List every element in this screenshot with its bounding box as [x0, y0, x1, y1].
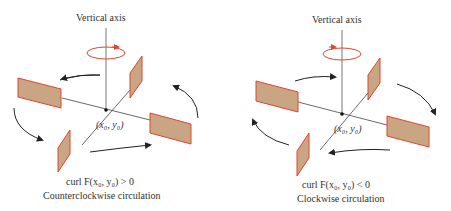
center-point	[340, 112, 344, 116]
point-label: (x₀, y₀)	[334, 123, 362, 134]
point-label: (x₀, y₀)	[96, 119, 124, 130]
paddle-right	[150, 113, 191, 144]
curl-caption: curl F(x₀, y₀) < 0	[302, 179, 370, 190]
axis-label: Vertical axis	[312, 14, 362, 25]
paddle-right	[387, 116, 429, 147]
center-point	[104, 108, 108, 112]
paddle-back	[368, 58, 380, 100]
ccw-panel: Vertical axis (x₀, y₀) curl F(x₀, y₀) > …	[0, 0, 225, 211]
cw-panel: Vertical axis (x₀, y₀) curl F(x₀, y₀) < …	[225, 0, 451, 211]
axis-label: Vertical axis	[76, 12, 126, 23]
paddle-left	[18, 78, 61, 108]
circulation-caption: Clockwise circulation	[297, 193, 384, 204]
flow-arrow	[295, 77, 335, 82]
curl-caption: curl F(x₀, y₀) > 0	[66, 176, 134, 187]
paddle-front	[297, 133, 309, 176]
paddle-back	[130, 56, 142, 98]
paddle-front	[58, 130, 70, 172]
paddle-left	[256, 81, 298, 112]
circulation-caption: Counterclockwise circulation	[43, 190, 160, 201]
